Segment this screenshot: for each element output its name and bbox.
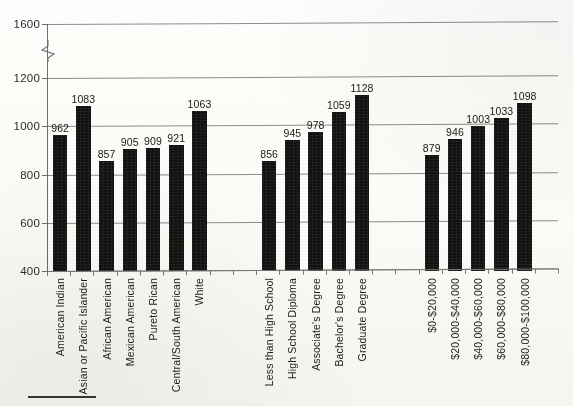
bar-value-label: 857 <box>90 148 124 160</box>
bar <box>262 161 277 271</box>
bar <box>192 111 207 271</box>
y-axis-label-1600: 1600 <box>14 18 40 30</box>
bar-value-label: 978 <box>299 119 333 131</box>
category-label: $20,000-$40,000 <box>449 278 461 360</box>
y-tick-800 <box>42 175 47 176</box>
bar <box>425 155 440 271</box>
x-tick <box>558 268 559 273</box>
y-axis-label-800: 800 <box>20 169 40 181</box>
y-axis-label-1200: 1200 <box>14 72 40 84</box>
category-label: Graduate Degree <box>356 278 368 361</box>
bar <box>53 135 68 271</box>
bar <box>517 103 532 271</box>
category-label: $40,000-$60,000 <box>472 278 484 360</box>
bar <box>494 118 509 271</box>
bar <box>355 95 370 271</box>
category-label: Associate's Degree <box>310 278 322 371</box>
category-label: $80,000-$100,000 <box>519 278 531 366</box>
bar-value-label: 1063 <box>182 98 216 110</box>
bar <box>123 149 138 271</box>
category-label: $60,000-$80,000 <box>495 278 507 360</box>
bar-value-label: 962 <box>43 122 77 134</box>
bar <box>169 145 184 271</box>
bar <box>76 106 91 271</box>
bar-value-label: 946 <box>438 126 472 138</box>
bar <box>471 126 486 271</box>
y-axis-label-400: 400 <box>20 265 40 277</box>
y-axis-label-1000: 1000 <box>14 120 40 132</box>
y-tick-1600 <box>42 24 47 25</box>
bar <box>448 139 463 271</box>
bar-value-label: 1059 <box>322 99 356 111</box>
bar <box>146 148 161 271</box>
bar <box>308 132 323 271</box>
footnote-rule <box>28 396 96 398</box>
category-label: Central/South American <box>170 278 182 392</box>
gridline-1600 <box>47 21 558 25</box>
y-tick-600 <box>42 223 47 224</box>
category-label: High School Diploma <box>286 278 298 379</box>
bar-value-label: 1083 <box>66 93 100 105</box>
category-label: Less than High School <box>263 278 275 386</box>
category-label: African American <box>101 278 113 360</box>
category-label: American Indian <box>54 278 66 356</box>
gridline-1200 <box>47 75 558 79</box>
category-label: White <box>193 278 205 306</box>
bar-chart: 4006008001000120016009621083857905909921… <box>0 0 573 406</box>
bar <box>99 161 114 271</box>
y-tick-1200 <box>42 78 47 79</box>
category-label: Asian or Pacific Islander <box>77 278 89 394</box>
y-axis-break-icon <box>40 40 56 62</box>
bar-value-label: 879 <box>415 142 449 154</box>
bar-value-label: 856 <box>252 148 286 160</box>
bar-value-label: 1033 <box>484 105 518 117</box>
plot-area: 4006008001000120016009621083857905909921… <box>47 24 558 271</box>
bar-value-label: 921 <box>159 132 193 144</box>
category-label: Mexican American <box>124 278 136 366</box>
bar-value-label: 1098 <box>508 90 542 102</box>
bar <box>332 112 347 271</box>
category-label: Bachelor's Degree <box>333 278 345 367</box>
bar <box>285 140 300 271</box>
y-axis-label-600: 600 <box>20 217 40 229</box>
category-label: Pureto Rican <box>147 278 159 341</box>
category-label: $0-$20,000 <box>426 278 438 333</box>
bar-value-label: 1128 <box>345 82 379 94</box>
